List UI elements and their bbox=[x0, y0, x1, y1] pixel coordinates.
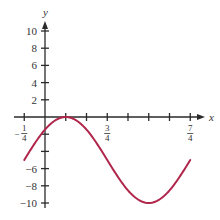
y-axis-arrow-icon bbox=[42, 21, 48, 29]
x-tick-label-numerator: 7 bbox=[188, 123, 193, 133]
y-tick-label: 4 bbox=[32, 77, 38, 89]
x-axis-title: x bbox=[208, 111, 214, 123]
axes: x y bbox=[14, 6, 214, 208]
x-tick-label: 74 bbox=[187, 123, 193, 143]
x-tick-label-denominator: 4 bbox=[22, 133, 27, 143]
x-tick-label-denominator: 4 bbox=[188, 133, 193, 143]
x-tick-label-numerator: 1 bbox=[22, 123, 27, 133]
chart: x y 14−3474108642−6−8−10 bbox=[0, 0, 220, 220]
y-tick-label: 8 bbox=[32, 42, 38, 54]
y-tick-label: −6 bbox=[25, 163, 37, 175]
x-tick-label: 34 bbox=[104, 123, 110, 143]
y-tick-label: 10 bbox=[26, 25, 38, 37]
y-tick-label: −10 bbox=[20, 197, 38, 209]
x-tick-label-numerator: 3 bbox=[105, 123, 110, 133]
x-tick-label-denominator: 4 bbox=[105, 133, 110, 143]
x-tick-label-sign: − bbox=[14, 129, 19, 139]
y-axis-title: y bbox=[42, 6, 48, 18]
y-tick-label: 6 bbox=[32, 59, 38, 71]
x-tick-label: 14− bbox=[14, 123, 27, 143]
x-axis-arrow-icon bbox=[197, 114, 205, 120]
y-tick-label: 2 bbox=[32, 94, 38, 106]
y-tick-label: −8 bbox=[25, 180, 37, 192]
